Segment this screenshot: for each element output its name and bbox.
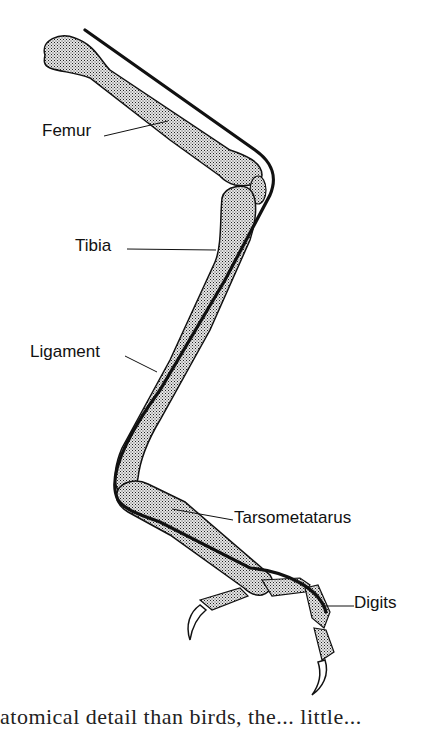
label-digits: Digits [354, 594, 397, 611]
femur-bone [44, 36, 262, 186]
tibia-leader [127, 249, 216, 250]
ligament-leader [125, 356, 157, 372]
label-ligament: Ligament [30, 343, 100, 360]
tibia-bone [115, 186, 256, 493]
label-tibia: Tibia [75, 237, 111, 254]
label-femur: Femur [42, 122, 91, 139]
label-tarsometatarus: Tarsometatarus [234, 509, 351, 526]
caption-text-cropped: atomical detail than birds, the... littl… [0, 706, 445, 728]
